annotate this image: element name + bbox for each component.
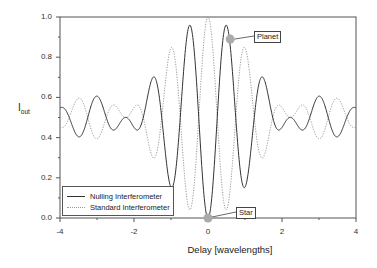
x-tick-label: -4 [50, 227, 70, 236]
y-tick-label: 1.0 [22, 12, 52, 21]
planet-label: Planet [254, 31, 281, 43]
x-tick-label: 4 [346, 227, 366, 236]
markers [204, 35, 255, 223]
solid-line-icon [67, 196, 85, 197]
legend-item-nulling: Nulling Interferometer [67, 191, 162, 201]
legend-item-standard: Standard Interferometer [67, 202, 170, 212]
y-axis-title-sub: out [21, 108, 30, 115]
star-marker [204, 214, 213, 223]
legend-label: Nulling Interferometer [90, 192, 162, 201]
planet-marker [226, 35, 235, 44]
x-tick-label: -2 [124, 227, 144, 236]
dotted-line-icon [67, 207, 85, 208]
x-axis-title: Delay [wavelengths] [160, 244, 300, 255]
star-label: Star [236, 207, 256, 219]
standard-interferometer-line [60, 17, 356, 210]
y-axis-title: Iout [18, 102, 30, 115]
legend: Nulling Interferometer Standard Interfer… [62, 186, 174, 216]
y-tick-label: 0.6 [22, 92, 52, 101]
x-tick-label: 2 [272, 227, 292, 236]
legend-label: Standard Interferometer [90, 203, 170, 212]
y-tick-label: 0.0 [22, 213, 52, 222]
y-tick-label: 0.4 [22, 133, 52, 142]
y-tick-label: 0.2 [22, 173, 52, 182]
y-tick-label: 0.8 [22, 52, 52, 61]
x-tick-label: 0 [198, 227, 218, 236]
